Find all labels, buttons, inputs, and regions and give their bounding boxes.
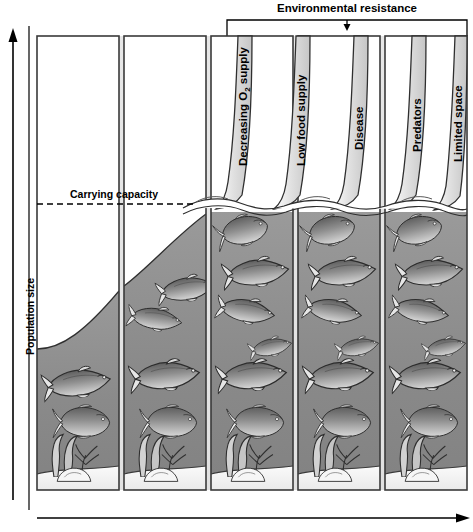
population-growth-figure: Environmental resistance: [0, 0, 473, 532]
x-axis: [37, 514, 470, 523]
environmental-resistance-label: Environmental resistance: [277, 2, 417, 14]
panel-2: [124, 36, 217, 490]
panel-3: [211, 36, 294, 490]
chute-label-disease: Disease: [353, 107, 365, 150]
figure-canvas: Environmental resistance: [0, 0, 473, 532]
y-axis: [9, 28, 18, 500]
x-axis-arrowhead: [456, 514, 470, 523]
chute-label-predators: Predators: [411, 98, 423, 152]
panel-1: [37, 36, 119, 490]
y-axis-label: Population size: [24, 278, 36, 355]
y-axis-arrowhead: [9, 28, 18, 42]
environmental-resistance-bracket: [227, 20, 467, 36]
chute-label-decreasing-o2-supply-main: Decreasing O: [237, 92, 249, 166]
panel-4: [298, 36, 381, 490]
carrying-capacity-label: Carrying capacity: [70, 188, 158, 200]
chute-label-low-food-supply: Low food supply: [295, 74, 307, 166]
chute-label-o2-tail: supply: [237, 47, 249, 88]
chute-label-limited-space: Limited space: [452, 85, 464, 162]
